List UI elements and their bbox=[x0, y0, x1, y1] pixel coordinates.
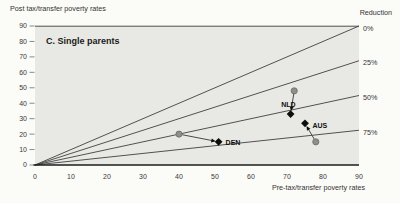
x-tick-label-20: 20 bbox=[103, 173, 111, 180]
marker-circle-DEN bbox=[176, 131, 182, 137]
x-axis-ticks: 0102030405060708090 bbox=[33, 173, 363, 180]
x-tick-label-60: 60 bbox=[247, 173, 255, 180]
x-tick-label-30: 30 bbox=[139, 173, 147, 180]
country-label-DEN: DEN bbox=[226, 139, 241, 146]
reduction-label-75: 75% bbox=[363, 128, 378, 137]
reduction-header: Reduction bbox=[360, 8, 392, 17]
marker-circle-NLD bbox=[291, 88, 297, 94]
y-axis-ticks: 0102030405060708090 bbox=[19, 22, 34, 168]
y-tick-label-50: 50 bbox=[19, 84, 27, 91]
y-tick-label-70: 70 bbox=[19, 53, 27, 60]
country-label-AUS: AUS bbox=[313, 122, 328, 129]
marker-circle-AUS bbox=[313, 139, 319, 145]
x-axis-title: Pre-tax/transfer poverty rates bbox=[272, 183, 365, 192]
y-tick-label-90: 90 bbox=[19, 22, 27, 29]
reduction-label-25: 25% bbox=[363, 58, 378, 67]
x-tick-label-50: 50 bbox=[211, 173, 219, 180]
x-tick-label-10: 10 bbox=[67, 173, 75, 180]
reduction-label-0: 0% bbox=[363, 24, 374, 33]
x-tick-label-40: 40 bbox=[175, 173, 183, 180]
y-axis-title: Post tax/transfer poverty rates bbox=[10, 4, 106, 13]
y-tick-label-80: 80 bbox=[19, 38, 27, 45]
reduction-labels: 0%25%50%75% bbox=[363, 24, 378, 137]
reduction-label-50: 50% bbox=[363, 93, 378, 102]
chart-canvas: Post tax/transfer poverty rates Reductio… bbox=[0, 0, 400, 203]
x-tick-label-70: 70 bbox=[283, 173, 291, 180]
x-tick-label-90: 90 bbox=[355, 173, 363, 180]
y-tick-label-0: 0 bbox=[23, 161, 27, 168]
y-tick-label-60: 60 bbox=[19, 69, 27, 76]
y-tick-label-30: 30 bbox=[19, 115, 27, 122]
y-tick-label-20: 20 bbox=[19, 131, 27, 138]
panel-title: C. Single parents bbox=[46, 36, 120, 46]
country-label-NLD: NLD bbox=[281, 101, 295, 108]
y-tick-label-10: 10 bbox=[19, 146, 27, 153]
y-tick-label-40: 40 bbox=[19, 100, 27, 107]
x-tick-label-0: 0 bbox=[33, 173, 37, 180]
x-tick-label-80: 80 bbox=[319, 173, 327, 180]
